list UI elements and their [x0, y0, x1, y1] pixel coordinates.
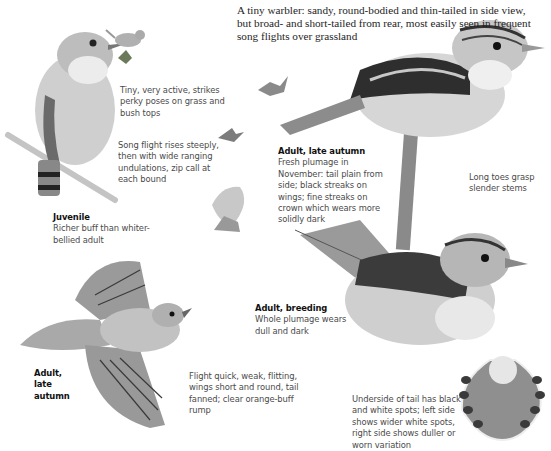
- caption-adult-late-autumn-text: Fresh plumage in November: tail plain fr…: [278, 157, 383, 224]
- caption-long-toes: Long toes grasp slender stems: [469, 172, 549, 195]
- caption-juvenile-text: Richer buff than whiter-bellied adult: [53, 223, 150, 244]
- caption-adult-late-autumn-title: Adult, late autumn: [278, 146, 393, 157]
- caption-adult-breeding-title: Adult, breeding: [255, 303, 355, 314]
- caption-adult-late-autumn-flight-title: Adult, late autumn: [34, 368, 82, 402]
- intro-description: A tiny warbler: sandy, round-bodied and …: [237, 4, 537, 43]
- caption-flight: Flight quick, weak, flitting, wings shor…: [189, 371, 299, 417]
- caption-adult-late-autumn-perched: Adult, late autumn Fresh plumage in Nove…: [278, 146, 393, 226]
- caption-song-flight: Song flight rises steeply, then with wid…: [118, 140, 223, 186]
- caption-juvenile: Juvenile Richer buff than whiter-bellied…: [53, 212, 153, 246]
- caption-juvenile-title: Juvenile: [53, 212, 153, 223]
- caption-adult-breeding-text: Whole plumage wears dull and dark: [255, 314, 346, 335]
- caption-tail-underside: Underside of tail has black and white sp…: [352, 394, 467, 451]
- caption-perky-poses: Tiny, very active, strikes perky poses o…: [120, 85, 230, 119]
- caption-adult-breeding: Adult, breeding Whole plumage wears dull…: [255, 303, 355, 337]
- caption-adult-late-autumn-flight: Adult, late autumn: [34, 368, 82, 402]
